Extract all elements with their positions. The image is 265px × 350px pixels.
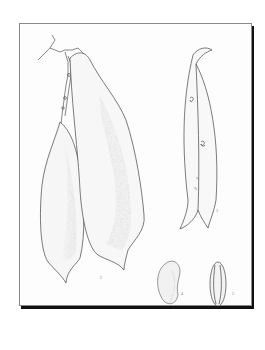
- seed-kidney: [158, 261, 180, 304]
- figure-label-4: 4: [181, 291, 183, 296]
- figure-label-5: 5: [232, 291, 234, 296]
- pod-right: [180, 48, 217, 229]
- figure-label-3: 3: [216, 208, 218, 213]
- figure-label-2: 2: [100, 275, 102, 280]
- botanical-illustration: [0, 0, 265, 350]
- seed-side: [210, 262, 226, 306]
